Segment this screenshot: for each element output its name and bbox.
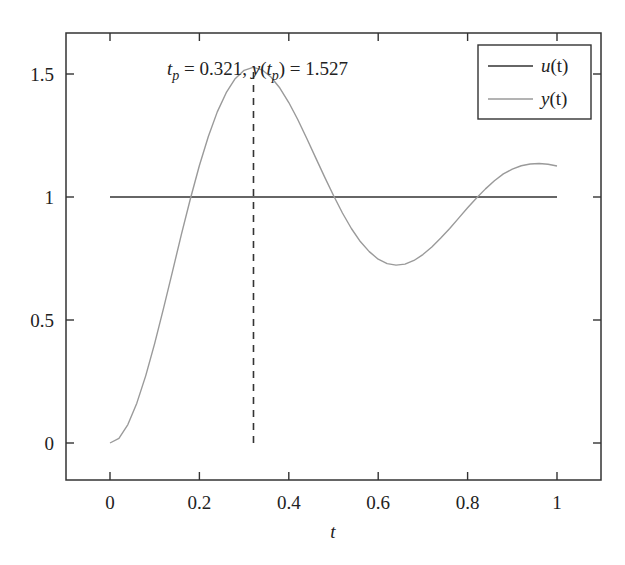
legend-label-y: y(t) (539, 88, 567, 110)
step-response-chart: tp = 0.321, y(tp) = 1.527 00.20.40.60.81… (0, 0, 625, 565)
legend: u(t) y(t) (478, 45, 591, 119)
data-series (110, 67, 557, 443)
peak-annotation-text: tp = 0.321, y(tp) = 1.527 (167, 58, 348, 83)
peak-annotation: tp = 0.321, y(tp) = 1.527 (167, 58, 348, 443)
x-tick-label: 0.8 (456, 492, 480, 513)
y-tick-label: 1 (45, 187, 55, 208)
x-tick-label: 0.4 (277, 492, 301, 513)
legend-box (478, 45, 591, 119)
x-tick-label: 1 (552, 492, 562, 513)
y-tick-label: 0.5 (30, 310, 54, 331)
y-tick-label: 0 (45, 433, 55, 454)
x-tick-label: 0.6 (366, 492, 390, 513)
y-tick-label: 1.5 (30, 64, 54, 85)
x-axis-label: t (330, 521, 336, 542)
x-tick-label: 0 (105, 492, 115, 513)
series-yt-line (110, 67, 557, 443)
legend-label-u: u(t) (541, 55, 568, 77)
x-tick-label: 0.2 (188, 492, 212, 513)
